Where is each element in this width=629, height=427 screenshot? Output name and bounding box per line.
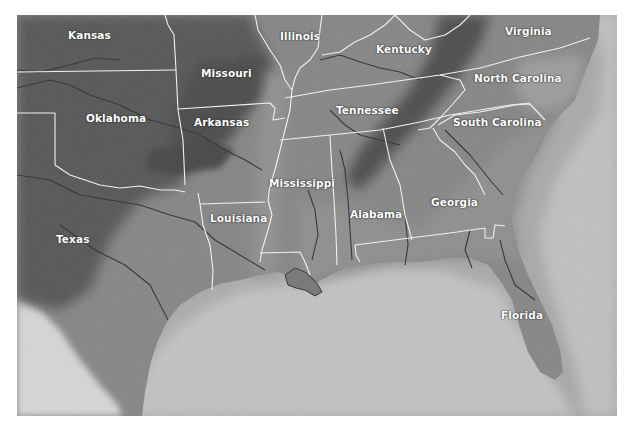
state-label-missouri: Missouri xyxy=(201,68,252,79)
state-label-kansas: Kansas xyxy=(68,30,111,41)
state-label-illinois: Illinois xyxy=(280,31,320,42)
state-label-alabama: Alabama xyxy=(350,209,402,220)
state-label-oklahoma: Oklahoma xyxy=(86,113,146,124)
state-label-mississippi: Mississippi xyxy=(269,178,335,189)
state-label-tennessee: Tennessee xyxy=(336,105,399,116)
state-label-virginia: Virginia xyxy=(505,26,552,37)
state-label-louisiana: Louisiana xyxy=(210,213,267,224)
state-label-north-carolina: North Carolina xyxy=(474,73,562,84)
state-label-texas: Texas xyxy=(56,234,90,245)
relief-map[interactable]: Kansas Missouri Illinois Kentucky Virgin… xyxy=(17,15,617,416)
state-label-arkansas: Arkansas xyxy=(194,117,249,128)
state-label-georgia: Georgia xyxy=(431,197,478,208)
state-label-kentucky: Kentucky xyxy=(376,44,432,55)
state-label-south-carolina: South Carolina xyxy=(453,117,542,128)
state-label-florida: Florida xyxy=(501,310,543,321)
